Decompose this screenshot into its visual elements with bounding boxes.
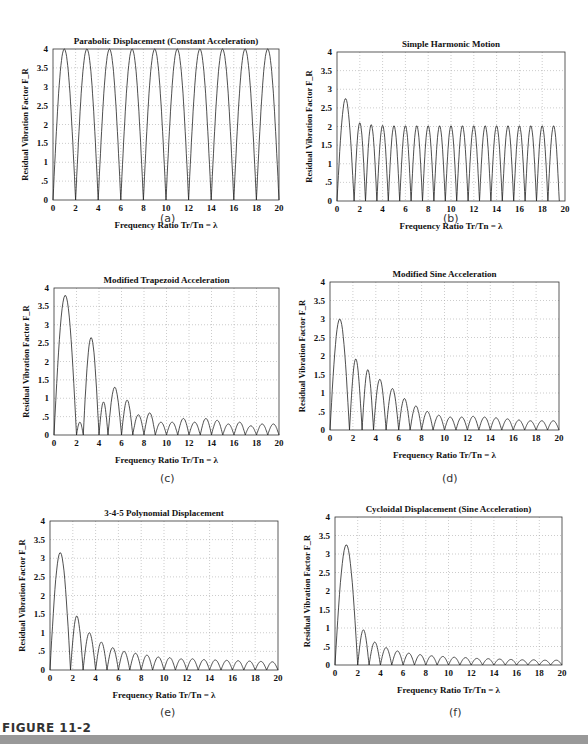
- y-tick-label: .5: [38, 646, 45, 656]
- x-tick-label: 20: [274, 673, 284, 683]
- x-tick-label: 2: [351, 433, 356, 443]
- x-tick-label: 20: [275, 438, 285, 448]
- y-tick-label: 3: [44, 82, 49, 92]
- chart-title: Parabolic Displacement (Constant Acceler…: [74, 36, 259, 46]
- y-tick-label: 3: [328, 84, 333, 94]
- y-axis-label: Residual Vibration Factor F_R: [297, 299, 307, 412]
- y-tick-label: .5: [323, 642, 330, 652]
- y-tick-label: 3.5: [321, 66, 333, 76]
- x-tick-label: 8: [139, 673, 144, 683]
- x-tick-label: 14: [207, 438, 217, 448]
- y-tick-label: 0: [45, 430, 50, 440]
- y-axis-label: Residual Vibration Factor F_R: [304, 69, 314, 182]
- figure-label: FIGURE 11-2: [2, 721, 91, 735]
- y-axis-label: Residual Vibration Factor F_R: [302, 534, 312, 647]
- chart-e: 3-4-5 Polynomial Displacement02468101214…: [17, 508, 283, 700]
- x-tick-label: 18: [251, 673, 261, 683]
- x-tick-label: 10: [440, 433, 450, 443]
- y-tick-label: 2: [326, 586, 331, 596]
- x-tick-label: 0: [48, 673, 53, 683]
- x-tick-label: 10: [160, 673, 170, 683]
- x-tick-label: 18: [252, 203, 262, 213]
- x-tick-label: 16: [512, 668, 522, 678]
- x-tick-label: 4: [93, 673, 98, 683]
- x-tick-label: 12: [463, 433, 473, 443]
- x-tick-label: 16: [230, 438, 240, 448]
- y-tick-label: 3: [326, 549, 331, 559]
- x-tick-label: 2: [74, 438, 79, 448]
- x-tick-label: 6: [119, 203, 124, 213]
- x-tick-label: 2: [358, 204, 363, 214]
- y-tick-label: 0: [41, 665, 46, 675]
- x-tick-label: 0: [328, 433, 333, 443]
- y-tick-label: 1: [45, 393, 50, 403]
- x-tick-label: 2: [355, 668, 360, 678]
- chart-title: Modified Sine Acceleration: [393, 269, 497, 279]
- y-tick-label: 2.5: [37, 101, 49, 111]
- x-tick-label: 14: [207, 203, 217, 213]
- x-tick-label: 8: [419, 433, 424, 443]
- x-tick-label: 12: [184, 203, 194, 213]
- chart-d: Modified Sine Acceleration02468101214161…: [297, 269, 564, 460]
- x-tick-label: 18: [532, 433, 542, 443]
- y-tick-label: 4: [328, 47, 333, 57]
- y-tick-label: 0: [321, 425, 326, 435]
- x-tick-label: 14: [489, 668, 499, 678]
- y-tick-label: .5: [41, 176, 48, 186]
- y-axis-label: Residual Vibration Factor F_R: [17, 538, 27, 651]
- x-tick-label: 2: [73, 203, 78, 213]
- x-tick-label: 4: [374, 433, 379, 443]
- x-tick-label: 6: [396, 433, 401, 443]
- y-tick-label: .5: [42, 412, 49, 422]
- x-tick-label: 16: [515, 204, 525, 214]
- chart-f: Cycloidal Displacement (Sine Acceleratio…: [302, 504, 567, 695]
- y-tick-label: 2: [328, 122, 333, 132]
- y-tick-label: 1.5: [321, 140, 333, 150]
- x-tick-label: 14: [205, 673, 215, 683]
- y-tick-label: 2: [44, 120, 49, 130]
- x-tick-label: 16: [509, 433, 519, 443]
- x-tick-label: 8: [424, 668, 429, 678]
- y-axis-label: Residual Vibration Factor F_R: [21, 304, 31, 417]
- x-tick-label: 16: [228, 673, 238, 683]
- x-tick-label: 8: [426, 204, 431, 214]
- y-tick-label: 2.5: [321, 103, 333, 113]
- subcaption-d: (d): [442, 472, 458, 485]
- x-tick-label: 20: [555, 433, 565, 443]
- y-tick-label: .5: [318, 407, 325, 417]
- subcaption-b: (b): [443, 212, 459, 225]
- y-tick-label: 2.5: [314, 333, 326, 343]
- y-tick-label: 2.5: [38, 338, 50, 348]
- x-tick-label: 4: [378, 668, 383, 678]
- y-tick-label: 1.5: [34, 609, 46, 619]
- y-tick-label: 2: [45, 357, 50, 367]
- y-tick-label: 3: [45, 320, 50, 330]
- chart-a: Parabolic Displacement (Constant Acceler…: [20, 36, 284, 230]
- x-tick-label: 20: [275, 203, 285, 213]
- x-tick-label: 8: [142, 438, 147, 448]
- y-tick-label: 3.5: [314, 296, 326, 306]
- subcaption-c: (c): [160, 472, 175, 485]
- chart-title: Modified Trapezoid Acceleration: [103, 275, 229, 285]
- x-tick-label: 18: [538, 204, 548, 214]
- x-tick-label: 0: [333, 668, 338, 678]
- y-tick-label: 0: [328, 196, 333, 206]
- y-tick-label: 0: [44, 195, 49, 205]
- subcaption-a: (a): [160, 212, 175, 225]
- x-tick-label: 0: [335, 204, 340, 214]
- figure-rule: [0, 735, 588, 744]
- y-axis-label: Residual Vibration Factor F_R: [20, 67, 30, 180]
- x-tick-label: 4: [380, 204, 385, 214]
- x-tick-label: 0: [51, 203, 56, 213]
- x-tick-label: 14: [492, 204, 502, 214]
- x-tick-label: 6: [401, 668, 406, 678]
- y-tick-label: 2.5: [319, 568, 331, 578]
- x-tick-label: 8: [141, 203, 146, 213]
- chart-title: Simple Harmonic Motion: [402, 39, 500, 49]
- data-curve: [337, 99, 559, 201]
- x-tick-label: 16: [229, 203, 239, 213]
- x-tick-label: 4: [96, 203, 101, 213]
- x-tick-label: 0: [52, 438, 57, 448]
- y-tick-label: 1: [328, 159, 333, 169]
- x-tick-label: 12: [467, 668, 477, 678]
